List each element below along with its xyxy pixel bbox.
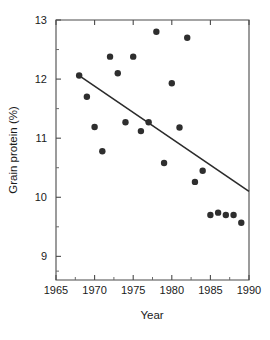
x-tick-label: 1970 — [82, 284, 106, 296]
data-point — [76, 72, 82, 78]
x-axis-title: Year — [140, 309, 163, 321]
data-point — [145, 119, 151, 125]
y-axis-title: Grain protein (%) — [7, 106, 19, 194]
data-point — [223, 212, 229, 218]
y-tick-label: 11 — [36, 132, 47, 144]
axis-ticks — [56, 20, 249, 280]
data-point — [230, 212, 236, 218]
x-tick-label: 1965 — [44, 284, 68, 296]
data-point — [84, 94, 90, 100]
data-point — [238, 219, 244, 225]
data-point — [138, 128, 144, 134]
data-point — [99, 148, 105, 154]
data-point — [207, 212, 213, 218]
x-tick-label: 1980 — [160, 284, 184, 296]
x-tick-label: 1985 — [198, 284, 222, 296]
plot-frame — [56, 20, 249, 280]
data-point — [215, 209, 221, 215]
x-tick-label: 1975 — [121, 284, 145, 296]
axes — [56, 20, 249, 280]
y-axis-tick-labels: 910111213 — [35, 14, 47, 262]
data-point — [169, 80, 175, 86]
data-point — [161, 160, 167, 166]
data-point — [115, 70, 121, 76]
y-tick-label: 10 — [35, 191, 47, 203]
data-point — [176, 124, 182, 130]
data-point — [184, 35, 190, 41]
regression-line — [79, 76, 249, 192]
data-point — [107, 53, 113, 59]
y-tick-label: 13 — [35, 14, 47, 26]
x-axis-tick-labels: 196519701975198019851990 — [44, 284, 261, 296]
data-point — [153, 29, 159, 35]
scatter-chart-figure: 196519701975198019851990 910111213 Year … — [0, 0, 270, 340]
data-point — [130, 53, 136, 59]
data-points — [76, 29, 245, 226]
data-point — [192, 179, 198, 185]
y-tick-label: 9 — [41, 250, 47, 262]
data-point — [199, 167, 205, 173]
chart-canvas: 196519701975198019851990 910111213 Year … — [0, 0, 270, 340]
trend-line — [79, 76, 249, 192]
x-tick-label: 1990 — [237, 284, 261, 296]
data-point — [91, 124, 97, 130]
data-point — [122, 119, 128, 125]
y-tick-label: 12 — [35, 73, 47, 85]
